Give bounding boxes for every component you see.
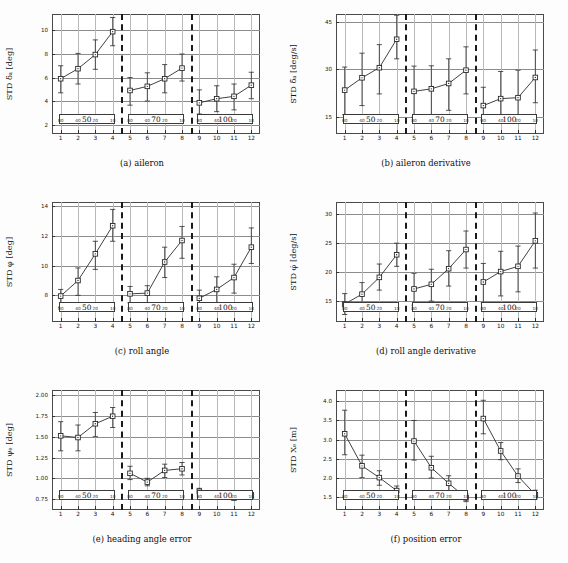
inner-tick-label: 20 [231,118,236,123]
error-bar-point [110,408,115,428]
x-tick-label: 6 [145,135,149,141]
inner-tick-label: 40 [214,494,219,499]
inner-tick-label: 40 [429,306,434,311]
error-bar-point [231,84,236,110]
subplot-b: STD δ̇ₐ [deg/s]1530455070100804020108040… [284,0,568,188]
x-tick-mark [113,130,114,134]
error-bar-point [359,455,364,477]
series-line [130,68,182,90]
error-bar-point [515,70,520,118]
x-tick-mark [113,318,114,322]
inner-tick-label: 20 [231,306,236,311]
x-tick-mark [61,506,62,510]
inner-tick-label: 20 [446,306,451,311]
x-tick-mark [466,318,467,322]
x-tick-label: 2 [76,511,80,517]
x-tick-mark [431,506,432,510]
x-tick-label: 1 [343,511,347,517]
inner-tick-label: 40 [359,306,364,311]
x-tick-label: 8 [464,511,468,517]
subplot-e: STD ψₑ [deg]0.751.001.251.501.752.005070… [0,376,284,563]
error-bar-point [359,53,364,105]
inner-tick-label: 80 [127,306,132,311]
y-axis-label-text: STD δₐ [deg] [4,48,14,101]
x-tick-mark [483,318,484,322]
inner-tick-label: 80 [127,494,132,499]
x-tick-label: 4 [111,511,115,517]
y-axis-label-text: STD φ̇ [deg/s] [288,233,298,290]
y-axis-label-e: STD ψₑ [deg] [2,390,16,510]
y-tick-label: 45 [325,19,336,25]
x-tick-mark [449,130,450,134]
x-tick-label: 8 [464,135,468,141]
x-tick-label: 8 [464,323,468,329]
error-bar-point [463,231,468,268]
inner-tick-label: 40 [145,494,150,499]
x-tick-mark [379,318,380,322]
error-bar-point [145,286,150,304]
x-tick-mark [466,130,467,134]
x-tick-label: 4 [111,135,115,141]
x-tick-label: 10 [213,323,220,329]
x-tick-mark [535,130,536,134]
error-bar-point [93,241,98,269]
error-bar-point [93,413,98,437]
inner-tick-label: 80 [342,118,347,123]
series-line [61,32,113,79]
inner-tick-label: 20 [515,306,520,311]
inner-tick-label: 80 [197,306,202,311]
y-tick-label: 10 [41,27,52,33]
inner-tick-label: 80 [411,118,416,123]
x-tick-mark [147,130,148,134]
x-tick-label: 4 [111,323,115,329]
x-tick-label: 6 [145,323,149,329]
inner-tick-label: 10 [110,306,115,311]
y-tick-label: 30 [325,66,336,72]
x-tick-mark [165,130,166,134]
x-tick-label: 6 [429,135,433,141]
x-tick-label: 7 [163,135,167,141]
inner-tick-label: 40 [498,306,503,311]
x-tick-label: 7 [447,511,451,517]
y-tick-label: 30 [325,211,336,217]
x-tick-mark [362,130,363,134]
x-tick-label: 2 [360,135,364,141]
inner-tick-label: 10 [110,118,115,123]
x-tick-label: 11 [230,511,237,517]
y-tick-label: 15 [325,298,336,304]
inner-tick-label: 10 [394,306,399,311]
error-bar-point [197,90,202,114]
error-bar-point [533,213,538,268]
inner-tick-label: 40 [75,118,80,123]
x-tick-mark [182,506,183,510]
y-axis-label-b: STD δ̇ₐ [deg/s] [286,14,300,134]
error-bar-point [162,247,167,277]
x-tick-label: 11 [514,323,521,329]
x-tick-label: 1 [59,511,63,517]
subplot-a: STD δₐ [deg]2468105070100804020108040201… [0,0,284,188]
x-tick-mark [501,318,502,322]
inner-tick-label: 40 [214,306,219,311]
error-bar-point [342,67,347,115]
error-bar-point [179,54,184,81]
inner-tick-label: 20 [93,306,98,311]
inner-tick-label: 10 [394,118,399,123]
series-line [414,250,466,289]
x-tick-mark [199,318,200,322]
x-tick-mark [431,318,432,322]
x-tick-mark [234,130,235,134]
inner-tick-row-d: 804020108040201080402010 [336,306,544,315]
y-tick-label: 15 [325,114,336,120]
inner-tick-label: 20 [162,118,167,123]
y-tick-label: 1.25 [36,455,52,461]
x-tick-label: 3 [377,511,381,517]
x-tick-mark [345,506,346,510]
x-axis-a: 123456789101112 [52,134,260,146]
inner-tick-label: 20 [162,494,167,499]
inner-tick-label: 80 [58,494,63,499]
inner-tick-label: 80 [342,494,347,499]
x-tick-label: 10 [497,323,504,329]
inner-tick-label: 40 [214,118,219,123]
error-bar-point [231,264,236,293]
inner-tick-row-a: 804020108040201080402010 [52,118,260,127]
